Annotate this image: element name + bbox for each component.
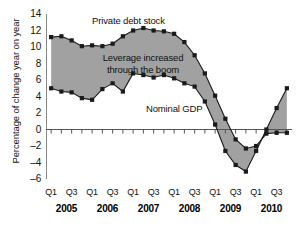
data-point xyxy=(111,81,115,85)
data-point xyxy=(213,122,217,126)
data-point xyxy=(49,35,53,39)
data-point xyxy=(80,44,84,48)
data-point xyxy=(285,86,289,90)
y-tick-label: –4 xyxy=(19,158,41,168)
data-point xyxy=(254,149,258,153)
chart-svg xyxy=(46,14,292,179)
x-tick-label-year: 2008 xyxy=(168,203,212,214)
data-point xyxy=(59,34,63,38)
data-point xyxy=(244,169,248,173)
data-point xyxy=(121,34,125,38)
data-point xyxy=(100,44,104,48)
data-point xyxy=(70,90,74,94)
data-point xyxy=(121,89,125,93)
data-point xyxy=(59,89,63,93)
data-point xyxy=(244,146,248,150)
data-point xyxy=(141,26,145,30)
data-point xyxy=(152,28,156,32)
y-tick-label: 8 xyxy=(19,59,41,69)
x-tick-label-year: 2007 xyxy=(127,203,171,214)
data-point xyxy=(152,75,156,79)
x-tick-label-year: 2006 xyxy=(86,203,130,214)
x-tick-label-year: 2009 xyxy=(209,203,253,214)
y-tick-label: 6 xyxy=(19,75,41,85)
annotation-nominal-gdp: Nominal GDP xyxy=(146,103,202,114)
data-point xyxy=(223,117,227,121)
data-point xyxy=(80,96,84,100)
shaded-band-leverage xyxy=(51,28,287,172)
y-tick-label: 14 xyxy=(19,9,41,19)
data-point xyxy=(90,98,94,102)
data-point xyxy=(193,85,197,89)
x-tick-label-quarter: Q3 xyxy=(265,187,289,197)
y-tick-label: 10 xyxy=(19,42,41,52)
y-tick-label: 2 xyxy=(19,108,41,118)
data-point xyxy=(264,132,268,136)
data-point xyxy=(49,86,53,90)
y-tick-label: –6 xyxy=(19,174,41,184)
data-point xyxy=(111,42,115,46)
y-tick-label: 4 xyxy=(19,92,41,102)
leverage-band xyxy=(51,28,287,172)
data-point xyxy=(234,137,238,141)
data-point xyxy=(254,144,258,148)
annotation-leverage-increased: Leverage increased through the boom xyxy=(88,52,198,75)
y-tick-label: 0 xyxy=(19,125,41,135)
data-point xyxy=(70,38,74,42)
plot-area xyxy=(46,14,292,179)
x-tick-label-year: 2010 xyxy=(250,203,294,214)
data-point xyxy=(285,131,289,135)
data-point xyxy=(90,43,94,47)
data-point xyxy=(264,127,268,131)
data-point xyxy=(131,28,135,32)
data-point xyxy=(275,106,279,110)
data-point xyxy=(162,29,166,33)
data-point xyxy=(234,163,238,167)
data-point xyxy=(100,87,104,91)
data-point xyxy=(203,99,207,103)
annotation-private-debt-stock: Private debt stock xyxy=(92,15,165,26)
y-tick-label: 12 xyxy=(19,26,41,36)
data-point xyxy=(275,131,279,135)
data-point xyxy=(182,81,186,85)
data-point xyxy=(213,94,217,98)
x-tick-label-year: 2005 xyxy=(45,203,89,214)
data-point xyxy=(172,76,176,80)
chart-figure: Percentage of change year on year 141210… xyxy=(0,0,308,235)
data-point xyxy=(223,149,227,153)
data-point xyxy=(172,32,176,36)
y-tick-label: –2 xyxy=(19,141,41,151)
data-point xyxy=(182,40,186,44)
data-point xyxy=(203,71,207,75)
